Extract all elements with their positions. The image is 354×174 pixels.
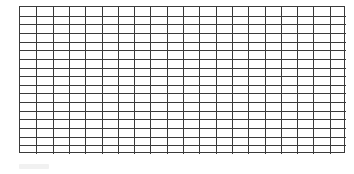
grid-table	[19, 6, 345, 153]
grid-lines	[20, 7, 346, 154]
caption-text	[19, 162, 53, 171]
